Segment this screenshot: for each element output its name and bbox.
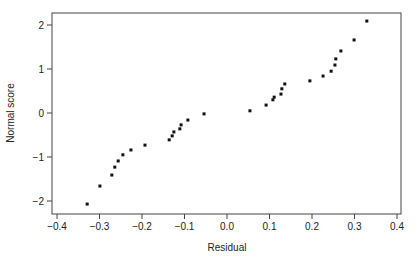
x-tick-label: −0.3	[90, 221, 110, 232]
y-tick-label: −1	[33, 152, 45, 163]
x-tick-label: 0.3	[348, 221, 362, 232]
data-point	[273, 96, 276, 99]
data-point	[365, 20, 368, 23]
data-point	[180, 123, 183, 126]
y-tick-label: 0	[38, 108, 44, 119]
data-point	[86, 203, 89, 206]
data-point	[203, 112, 206, 115]
data-point	[322, 75, 325, 78]
x-axis: −0.4−0.3−0.2−0.10.00.10.20.30.4	[47, 214, 404, 232]
data-point	[280, 87, 283, 90]
data-point	[143, 144, 146, 147]
x-axis-title: Residual	[208, 242, 247, 253]
data-point	[333, 64, 336, 67]
y-tick-label: 1	[38, 64, 44, 75]
x-tick-label: 0.2	[305, 221, 319, 232]
y-tick-label: −2	[33, 196, 45, 207]
x-tick-label: −0.4	[47, 221, 67, 232]
data-point	[283, 82, 286, 85]
data-point	[265, 104, 268, 107]
x-tick-label: 0.1	[263, 221, 277, 232]
x-tick-label: 0.4	[390, 221, 404, 232]
normal-probability-plot: −0.4−0.3−0.2−0.10.00.10.20.30.4 −2−1012 …	[0, 0, 420, 262]
data-point	[172, 130, 175, 133]
x-tick-label: 0.0	[220, 221, 234, 232]
data-point	[171, 134, 174, 137]
y-tick-label: 2	[38, 20, 44, 31]
data-point	[248, 109, 251, 112]
data-point	[121, 153, 124, 156]
data-point	[339, 49, 342, 52]
data-point	[308, 79, 311, 82]
data-point	[113, 166, 116, 169]
data-point	[168, 138, 171, 141]
data-point	[186, 119, 189, 122]
data-point	[129, 148, 132, 151]
data-point	[271, 98, 274, 101]
data-point	[98, 185, 101, 188]
x-tick-label: −0.2	[132, 221, 152, 232]
x-tick-label: −0.1	[175, 221, 195, 232]
y-axis: −2−1012	[33, 20, 52, 207]
data-point	[353, 38, 356, 41]
data-point	[117, 159, 120, 162]
data-point	[110, 174, 113, 177]
data-point	[330, 70, 333, 73]
data-point	[334, 57, 337, 60]
data-points	[86, 20, 369, 206]
plot-frame	[52, 13, 401, 214]
y-axis-title: Normal score	[5, 83, 16, 143]
data-point	[279, 93, 282, 96]
data-point	[178, 127, 181, 130]
